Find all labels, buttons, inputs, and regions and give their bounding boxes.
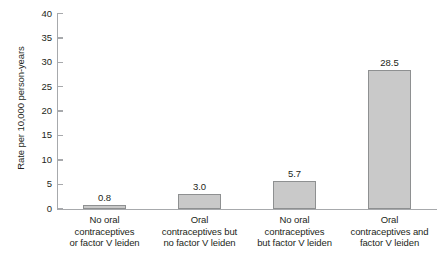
category-label-line: factor V leiden <box>342 237 437 249</box>
category-label-line: contraceptives <box>247 226 342 238</box>
category-label: No oralcontraceptivesor factor V leiden <box>57 214 152 249</box>
y-tick-35 <box>58 37 63 38</box>
y-tick-30 <box>58 62 63 63</box>
category-label-line: Oral <box>342 214 437 226</box>
bar <box>83 205 126 209</box>
x-axis-line <box>57 209 437 210</box>
y-tick-label: 10 <box>24 155 52 165</box>
bar <box>178 194 221 209</box>
bar <box>273 181 316 209</box>
category-label: Oralcontraceptives butno factor V leiden <box>152 214 247 249</box>
y-tick-label: 5 <box>24 179 52 189</box>
y-tick-label: 15 <box>24 130 52 140</box>
y-tick-40 <box>58 13 63 14</box>
y-tick-25 <box>58 86 63 87</box>
category-label: No oralcontraceptivesbut factor V leiden <box>247 214 342 249</box>
y-tick-label: 30 <box>24 57 52 67</box>
bar-value-label: 0.8 <box>75 192 135 203</box>
category-label-line: No oral <box>57 214 152 226</box>
bar-chart: Rate per 10,000 person-years 05101520253… <box>0 0 447 265</box>
category-label: Oralcontraceptives andfactor V leiden <box>342 214 437 249</box>
category-label-line: contraceptives <box>57 226 152 238</box>
category-label-line: No oral <box>247 214 342 226</box>
category-label-line: Oral <box>152 214 247 226</box>
category-label-line: but factor V leiden <box>247 237 342 249</box>
category-label-line: or factor V leiden <box>57 237 152 249</box>
y-tick-20 <box>58 110 63 111</box>
y-tick-label: 25 <box>24 82 52 92</box>
y-tick-label: 20 <box>24 106 52 116</box>
y-tick-0 <box>58 208 63 209</box>
bar <box>368 70 411 209</box>
y-tick-label: 35 <box>24 33 52 43</box>
bar-value-label: 28.5 <box>360 57 420 68</box>
y-tick-5 <box>58 184 63 185</box>
category-label-line: no factor V leiden <box>152 237 247 249</box>
y-tick-15 <box>58 135 63 136</box>
category-label-line: contraceptives but <box>152 226 247 238</box>
y-tick-label: 40 <box>24 9 52 19</box>
category-label-line: contraceptives and <box>342 226 437 238</box>
y-tick-10 <box>58 159 63 160</box>
bar-value-label: 5.7 <box>265 168 325 179</box>
y-tick-label: 0 <box>24 204 52 214</box>
bar-value-label: 3.0 <box>170 181 230 192</box>
